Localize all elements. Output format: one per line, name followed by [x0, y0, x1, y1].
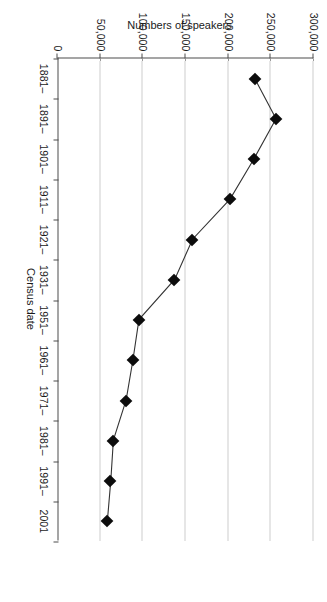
y-axis-tick — [141, 53, 142, 58]
rotated-figure-wrapper: 050,000100,000150,000200,000250,000300,0… — [0, 0, 327, 602]
x-axis-tick — [53, 98, 58, 99]
x-axis-tick — [53, 300, 58, 301]
y-axis-tick — [312, 53, 313, 58]
y-axis-tick — [99, 53, 100, 58]
y-axis-tick — [227, 53, 228, 58]
y-axis-tick — [56, 53, 57, 58]
x-axis-tick — [53, 541, 58, 542]
x-axis-tick — [53, 340, 58, 341]
data-point-marker — [119, 394, 132, 407]
gridline — [141, 58, 142, 540]
x-axis-tick — [53, 259, 58, 260]
data-point-marker — [106, 434, 119, 447]
x-axis-tick — [53, 461, 58, 462]
data-point-marker — [100, 515, 113, 528]
data-point-marker — [247, 152, 260, 165]
y-axis-title: Numbers of speakers — [69, 18, 289, 30]
data-point-marker — [269, 112, 282, 125]
x-axis-tick — [53, 501, 58, 502]
x-axis-tick-label: 1991– — [37, 466, 49, 496]
x-axis-title: Census date — [24, 57, 36, 540]
x-axis-tick-label: 1951– — [37, 305, 49, 335]
data-point-marker — [185, 233, 198, 246]
x-axis-tick — [53, 380, 58, 381]
x-axis-tick-label: 1931– — [37, 265, 49, 295]
x-axis-tick — [53, 58, 58, 59]
y-axis-tick — [269, 53, 270, 58]
data-point-marker — [104, 474, 117, 487]
y-axis-tick-label: 300,000 — [307, 12, 319, 51]
x-axis-tick-label: 1981– — [37, 426, 49, 456]
x-axis-tick-label: 1891– — [37, 104, 49, 134]
data-point-marker — [168, 273, 181, 286]
gridline — [227, 58, 228, 540]
y-axis-tick-label: 0 — [51, 45, 63, 51]
gridline — [269, 58, 270, 540]
x-axis-tick-label: 1961– — [37, 345, 49, 375]
data-point-marker — [248, 72, 261, 85]
gridline — [184, 58, 185, 540]
data-point-marker — [126, 354, 139, 367]
x-axis-tick-label: 1911– — [37, 184, 49, 213]
x-axis-tick-label: 1971– — [37, 385, 49, 415]
chart-figure: 050,000100,000150,000200,000250,000300,0… — [0, 0, 327, 602]
gridline — [99, 58, 100, 540]
y-axis-tick — [184, 53, 185, 58]
x-axis-tick-label: 1921– — [37, 224, 49, 254]
x-axis-tick — [53, 179, 58, 180]
series-polyline — [107, 78, 276, 520]
x-axis-tick-label: 1881– — [37, 63, 49, 93]
x-axis-tick-label: 1901– — [37, 144, 49, 174]
gridline — [312, 58, 313, 540]
plot-area: 050,000100,000150,000200,000250,000300,0… — [57, 57, 313, 540]
x-axis-tick — [53, 139, 58, 140]
x-axis-tick-label: 2001 — [37, 509, 49, 533]
x-axis-tick — [53, 219, 58, 220]
data-point-marker — [223, 193, 236, 206]
x-axis-tick — [53, 420, 58, 421]
